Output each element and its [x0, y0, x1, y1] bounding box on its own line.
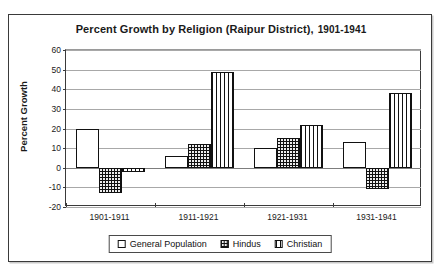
- bar: [122, 168, 145, 172]
- bar: [76, 129, 99, 168]
- gridline-10: [66, 148, 421, 149]
- bar: [211, 72, 234, 168]
- plot-area: 6050403020100-10-20: [65, 49, 421, 206]
- y-axis-title: Percent Growth: [18, 57, 29, 177]
- legend-item-hindus[interactable]: Hindus: [221, 239, 261, 249]
- gridline-50: [66, 70, 421, 71]
- y-tick-mark-50: [63, 70, 66, 71]
- y-tick-label-40: 40: [52, 84, 61, 94]
- y-tick-label-60: 60: [52, 45, 61, 55]
- x-axis-label-1901-1911: 1901-1911: [89, 212, 129, 222]
- chart-title-text: Percent Growth by Religion (Raipur Distr…: [76, 23, 314, 35]
- x-axis-label-1921-1931: 1921-1931: [267, 212, 308, 222]
- x-tick-mark: [66, 203, 67, 207]
- y-tick-label--10: -10: [49, 182, 61, 192]
- legend-label: Christian: [287, 239, 323, 249]
- x-axis-labels: 1901-19111911-19211921-19311931-1941: [65, 212, 421, 226]
- bar: [188, 144, 211, 168]
- y-tick-label-0: 0: [56, 163, 61, 173]
- x-tick-mark: [155, 203, 156, 207]
- legend-swatch-icon: [275, 240, 283, 248]
- bar: [165, 156, 188, 168]
- y-tick-mark-0: [63, 168, 66, 169]
- y-tick-mark-40: [63, 89, 66, 90]
- legend-item-general-population[interactable]: General Population: [118, 239, 207, 249]
- bar: [99, 168, 122, 194]
- y-tick-label-20: 20: [52, 124, 61, 134]
- chart-title: Percent Growth by Religion (Raipur Distr…: [9, 23, 433, 35]
- chart-frame: Percent Growth by Religion (Raipur Distr…: [8, 14, 432, 262]
- x-axis-label-1911-1921: 1911-1921: [178, 212, 218, 222]
- bar: [300, 125, 323, 168]
- bar: [277, 138, 300, 167]
- x-axis-label-1931-1941: 1931-1941: [356, 212, 397, 222]
- legend-swatch-icon: [118, 240, 126, 248]
- y-tick-mark-10: [63, 148, 66, 149]
- bar: [389, 93, 412, 168]
- y-tick-mark-60: [63, 50, 66, 51]
- gridline-30: [66, 109, 421, 110]
- y-tick-mark--20: [63, 207, 66, 208]
- y-tick-label--20: -20: [49, 202, 61, 212]
- y-tick-label-30: 30: [52, 104, 61, 114]
- legend-swatch-icon: [221, 240, 229, 248]
- legend-item-christian[interactable]: Christian: [275, 239, 323, 249]
- plot-right-edge: [420, 50, 422, 205]
- legend-label: Hindus: [233, 239, 261, 249]
- legend-label: General Population: [130, 239, 207, 249]
- x-tick-mark: [333, 203, 334, 207]
- y-tick-label-10: 10: [52, 143, 61, 153]
- y-tick-mark-20: [63, 129, 66, 130]
- bar: [366, 168, 389, 190]
- y-tick-mark-30: [63, 109, 66, 110]
- bar: [254, 148, 277, 168]
- y-tick-mark--10: [63, 187, 66, 188]
- chart-title-range: 1901-1941: [318, 24, 367, 35]
- gridline-60: [66, 50, 421, 51]
- bar: [343, 142, 366, 168]
- gridline--20: [66, 207, 421, 208]
- chart-legend: General PopulationHindusChristian: [109, 235, 332, 253]
- gridline-20: [66, 129, 421, 130]
- x-tick-mark: [244, 203, 245, 207]
- gridline-40: [66, 89, 421, 90]
- y-tick-label-50: 50: [52, 65, 61, 75]
